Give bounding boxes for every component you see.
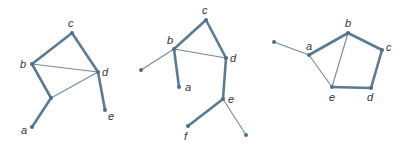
edge-b-c [348, 33, 382, 50]
edge-d-e [223, 58, 226, 99]
graph-3: abcde [272, 17, 392, 103]
node-e [330, 85, 334, 89]
graph-1: abcde [20, 17, 114, 136]
edge-e-r [223, 99, 246, 135]
graph-diagram: abcdecbdaefabcde [0, 0, 412, 149]
edge-c-d [206, 20, 226, 58]
edge-b-c [174, 20, 206, 49]
node-a [30, 125, 34, 129]
edge-d-e [332, 87, 371, 88]
node-label: d [102, 66, 109, 78]
edge-m-d [51, 72, 98, 98]
node-a [177, 85, 181, 89]
edge-b-c [32, 33, 72, 64]
node-label: c [68, 17, 74, 29]
edge-m-b [32, 64, 51, 98]
node-label: a [306, 40, 312, 52]
node-label: f [184, 130, 188, 142]
node-label: d [367, 91, 374, 103]
node-c [380, 48, 384, 52]
node-b [172, 47, 176, 51]
node-d [224, 56, 228, 60]
node-label: a [21, 124, 27, 136]
node-l [272, 40, 276, 44]
edge-b-a [174, 49, 179, 87]
node-m [49, 96, 53, 100]
node-label: b [167, 34, 173, 46]
node-a [307, 53, 311, 57]
node-c [70, 31, 74, 35]
node-f [186, 124, 190, 128]
edge-a-m [32, 98, 51, 127]
node-label: b [20, 58, 26, 70]
node-d [369, 86, 373, 90]
node-l [139, 68, 143, 72]
edge-b-d [32, 64, 98, 72]
node-c [204, 18, 208, 22]
edge-c-d [371, 50, 382, 88]
node-label: c [202, 4, 208, 16]
edge-a-e [309, 55, 332, 87]
graph-2: cbdaef [139, 4, 248, 142]
node-label: c [386, 41, 392, 53]
node-e [103, 108, 107, 112]
edge-b-l [141, 49, 174, 70]
node-e [221, 97, 225, 101]
edge-b-d [174, 49, 226, 58]
node-label: e [329, 91, 335, 103]
node-label: a [185, 81, 191, 93]
node-d [96, 70, 100, 74]
node-b [30, 62, 34, 66]
node-label: e [108, 110, 114, 122]
edge-c-d [72, 33, 98, 72]
node-label: d [230, 52, 237, 64]
node-label: e [228, 93, 234, 105]
edge-e-f [188, 99, 223, 126]
edge-l-a [274, 42, 309, 55]
node-r [244, 133, 248, 137]
node-label: b [345, 17, 351, 29]
node-b [346, 31, 350, 35]
